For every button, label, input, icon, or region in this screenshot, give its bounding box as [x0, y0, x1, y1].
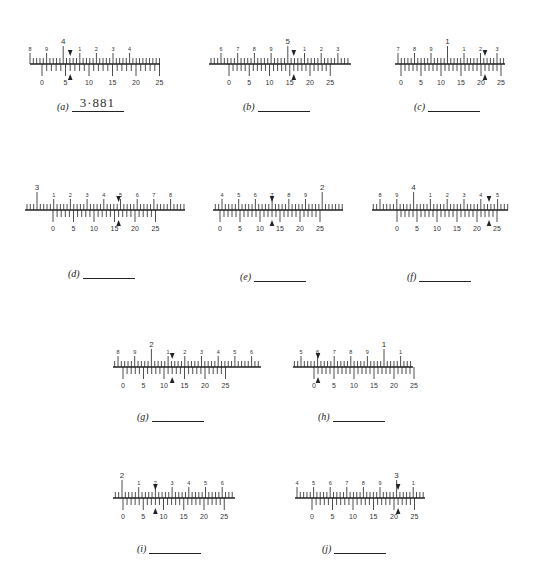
- vernier-scale-label: 20: [306, 79, 314, 86]
- vernier-scale-label: 0: [121, 513, 125, 520]
- main-scale-label: 5: [496, 192, 499, 198]
- vernier-panel-a: 89412340510152025: [30, 38, 170, 100]
- vernier-scale-label: 15: [180, 513, 188, 520]
- vernier-scale-svg: 89412340510152025: [30, 38, 170, 100]
- vernier-scale-label: 20: [200, 513, 208, 520]
- main-scale-label: 2: [69, 192, 72, 198]
- main-scale-label: 6: [250, 349, 253, 355]
- vernier-scale-label: 5: [141, 513, 145, 520]
- vernier-scale-label: 20: [477, 79, 485, 86]
- vernier-scale-label: 0: [227, 79, 231, 86]
- main-scale-label: 3: [495, 46, 498, 52]
- vernier-scale-label: 10: [256, 225, 264, 232]
- vernier-scale-label: 25: [152, 225, 160, 232]
- main-scale-label: 5: [312, 480, 315, 486]
- caption-e: (e): [240, 270, 306, 282]
- main-scale-label: 2: [320, 46, 323, 52]
- main-scale-label: 5: [233, 349, 236, 355]
- main-scale-label: 7: [396, 46, 399, 52]
- caption-j: (j): [322, 542, 386, 554]
- vernier-scale-label: 5: [247, 79, 251, 86]
- vernier-scale-label: 20: [390, 382, 398, 389]
- caption-label: (a): [57, 101, 69, 112]
- main-scale-label: 7: [345, 480, 348, 486]
- vernier-panel-c: 78911230510152025: [395, 38, 515, 100]
- caption-label: (g): [137, 411, 149, 422]
- vernier-scale-label: 5: [331, 513, 335, 520]
- caption-f: (f): [407, 270, 471, 282]
- main-scale-label: 9: [133, 349, 136, 355]
- main-scale-label: 9: [395, 192, 398, 198]
- main-scale-label: 1: [382, 340, 387, 349]
- main-scale-label: 5: [286, 37, 291, 46]
- answer-blank[interactable]: [149, 542, 201, 554]
- vernier-scale-label: 10: [160, 513, 168, 520]
- main-scale-label: 9: [429, 46, 432, 52]
- vernier-scale-label: 0: [310, 513, 314, 520]
- main-scale-label: 6: [219, 46, 222, 52]
- main-scale-label: 7: [152, 192, 155, 198]
- vernier-scale-svg: 3123456780510152025: [25, 182, 195, 244]
- vernier-panel-j: 456789310510152025: [295, 474, 435, 536]
- vernier-scale-label: 0: [399, 79, 403, 86]
- answer-blank[interactable]: [152, 410, 204, 422]
- main-scale-label: 1: [303, 46, 306, 52]
- main-scale-label: 7: [333, 349, 336, 355]
- caption-g: (g): [137, 410, 204, 422]
- caption-label: (c): [414, 101, 425, 112]
- main-scale-label: 8: [413, 46, 416, 52]
- answer-blank[interactable]: [258, 100, 310, 112]
- vernier-scale-label: 10: [85, 79, 93, 86]
- vernier-scale-label: 15: [109, 79, 117, 86]
- answer-blank[interactable]: [333, 410, 385, 422]
- arrow-down-icon: [68, 50, 73, 56]
- vernier-scale-label: 5: [419, 79, 423, 86]
- answer-blank[interactable]: [83, 267, 135, 279]
- answer-blank[interactable]: [254, 270, 306, 282]
- main-scale-label: 3: [111, 46, 114, 52]
- main-scale-label: 8: [28, 46, 31, 52]
- vernier-scale-svg: 78911230510152025: [395, 38, 515, 100]
- vernier-scale-label: 0: [312, 382, 316, 389]
- main-scale-label: 4: [220, 192, 223, 198]
- vernier-scale-label: 10: [349, 513, 357, 520]
- vernier-scale-label: 0: [40, 79, 44, 86]
- vernier-scale-label: 5: [332, 382, 336, 389]
- arrow-down-icon: [483, 50, 488, 56]
- main-scale-label: 4: [217, 349, 220, 355]
- answer-blank[interactable]: [334, 542, 386, 554]
- vernier-scale-label: 15: [370, 382, 378, 389]
- main-scale-label: 8: [349, 349, 352, 355]
- main-scale-label: 3: [171, 480, 174, 486]
- vernier-scale-label: 15: [286, 79, 294, 86]
- vernier-scale-label: 15: [453, 225, 461, 232]
- vernier-panel-d: 3123456780510152025: [25, 182, 195, 244]
- main-scale-label: 1: [429, 192, 432, 198]
- answer-blank[interactable]: [428, 100, 480, 112]
- main-scale-label: 5: [237, 192, 240, 198]
- vernier-panel-h: 56789110510152025: [293, 343, 423, 405]
- caption-h: (h): [318, 410, 385, 422]
- main-scale-label: 3: [86, 192, 89, 198]
- vernier-scale-label: 0: [51, 225, 55, 232]
- main-scale-label: 3: [462, 192, 465, 198]
- caption-label: (b): [243, 101, 255, 112]
- vernier-scale-label: 25: [316, 225, 324, 232]
- main-scale-label: 1: [137, 480, 140, 486]
- vernier-scale-label: 25: [220, 513, 228, 520]
- vernier-scale-label: 25: [411, 513, 419, 520]
- main-scale-label: 8: [253, 46, 256, 52]
- vernier-panel-i: 21234560510152025: [113, 474, 245, 536]
- main-scale-label: 3: [200, 349, 203, 355]
- vernier-scale-label: 20: [296, 225, 304, 232]
- vernier-panel-b: 678951230510152025: [209, 38, 361, 100]
- arrow-up-icon: [316, 377, 321, 383]
- main-scale-label: 1: [399, 349, 402, 355]
- arrow-up-icon: [153, 508, 158, 514]
- vernier-scale-label: 20: [390, 513, 398, 520]
- main-scale-label: 2: [320, 183, 325, 192]
- answer-blank[interactable]: [419, 270, 471, 282]
- arrow-down-icon: [153, 484, 158, 490]
- vernier-scale-svg: 45678920510152025: [213, 184, 353, 246]
- answer-blank[interactable]: 3·881: [72, 100, 124, 112]
